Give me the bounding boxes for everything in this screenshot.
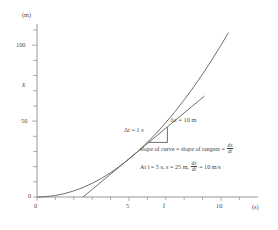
derivative-denominator-2: dt [191, 167, 197, 172]
slope-statement-annotation: slope of curve = slope of tangent = dxdt [140, 143, 234, 155]
x-axis-name: t [163, 203, 165, 210]
delta-t-label: Δt = 1 s [124, 127, 144, 133]
evaluation-t-value: = 5 s, [149, 164, 165, 170]
y-axis-name: x [22, 82, 25, 89]
x-axis-unit-label: (s) [252, 204, 259, 210]
chart-plot-area [0, 0, 278, 230]
derivative-denominator: dt [227, 149, 233, 154]
position-time-graph-figure: (m) 100 50 0 x 0 5 10 t (s) Δx = 10 m Δt… [0, 0, 278, 230]
y-tick-label-50: 50 [21, 118, 27, 124]
evaluation-x-value: = 25 m, [169, 164, 191, 170]
delta-x-label: Δx = 10 m [170, 117, 196, 123]
x-origin-label: 0 [34, 203, 37, 209]
x-axis-ticks [37, 197, 239, 201]
x-tick-label-10: 10 [216, 203, 222, 209]
derivative-fraction: dxdt [227, 143, 233, 155]
y-tick-label-100: 100 [16, 42, 25, 48]
y-origin-label: 0 [28, 193, 31, 199]
slope-statement-text: slope of curve = slope of tangent = [140, 146, 226, 152]
derivative-fraction-2: dxdt [191, 161, 197, 173]
delta-x-value: = 10 m [177, 116, 196, 123]
y-axis-unit-label: (m) [22, 12, 31, 18]
delta-t-value: = 1 s [130, 126, 144, 133]
evaluation-prefix: At [140, 164, 148, 170]
evaluation-slope-value: = 10 m/s [198, 164, 221, 170]
evaluation-statement-annotation: At t = 5 s, x = 25 m, dxdt = 10 m/s [140, 161, 221, 173]
x-tick-label-5: 5 [126, 203, 129, 209]
y-axis-ticks [32, 30, 37, 197]
